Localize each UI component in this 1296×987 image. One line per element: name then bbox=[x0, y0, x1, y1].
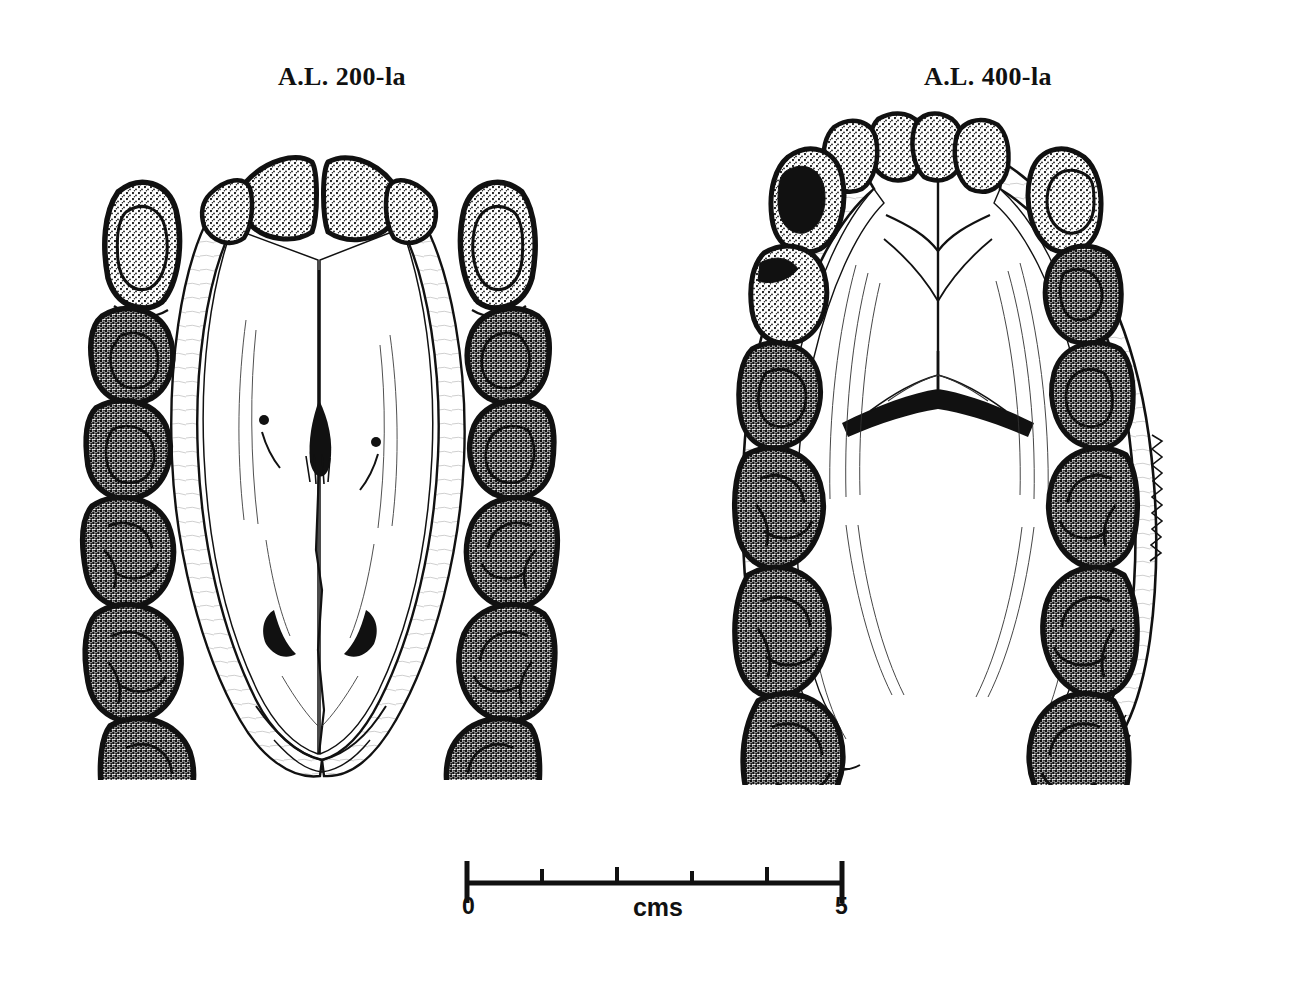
figure-plate: A.L. 200-la A.L. 400-la bbox=[0, 0, 1296, 987]
scale-end-label: 5 bbox=[835, 893, 848, 920]
specimen-label-left: A.L. 200-la bbox=[232, 62, 452, 92]
mandible-occlusal-drawing bbox=[660, 105, 1260, 785]
scale-bar: 0 cms 5 bbox=[440, 845, 870, 945]
scale-unit-label: cms bbox=[608, 893, 708, 922]
specimen-label-right: A.L. 400-la bbox=[878, 62, 1098, 92]
tooth-row-right bbox=[1028, 149, 1137, 785]
scale-start-label: 0 bbox=[462, 893, 475, 920]
maxilla-occlusal-drawing bbox=[60, 120, 580, 780]
maxilla-bone bbox=[171, 215, 464, 776]
